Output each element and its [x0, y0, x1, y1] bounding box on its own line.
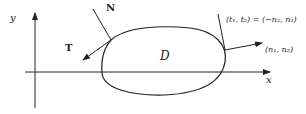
- normal-components-label: (n₁, n₂): [265, 45, 293, 54]
- tangent-components-label: (t₁, t₂) = (−n₂, n₁): [226, 15, 297, 24]
- normal-vector-right: [225, 43, 262, 50]
- tangent-label: T: [65, 42, 72, 53]
- x-axis-label: x: [266, 74, 272, 85]
- y-axis-label: y: [10, 12, 16, 23]
- tangent-vector-t: [83, 40, 111, 60]
- normal-label: N: [106, 2, 115, 13]
- diagram-canvas: y x D N T (t₁, t₂) = (−n₂, n₁) (n₁, n₂): [0, 0, 306, 114]
- region-label: D: [160, 49, 170, 63]
- normal-vector-n: [93, 9, 111, 40]
